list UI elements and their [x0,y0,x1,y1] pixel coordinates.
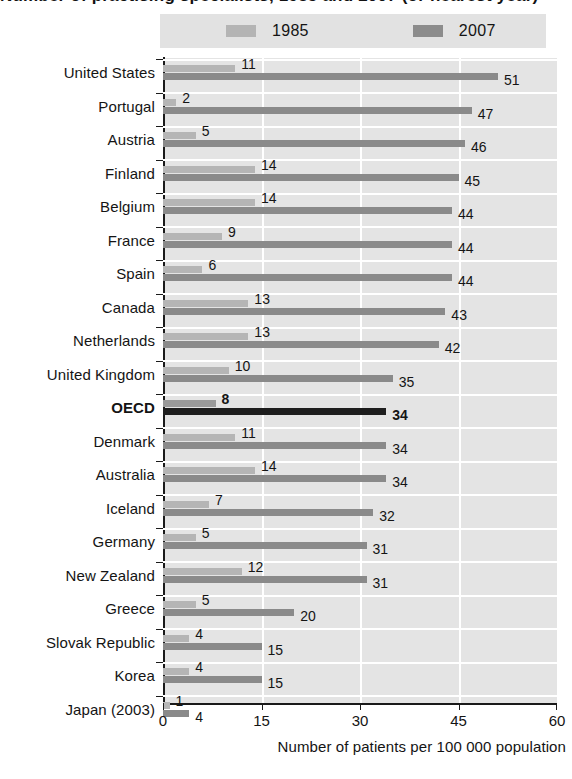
legend-item-2007[interactable]: 2007 [413,22,496,40]
bar-2007[interactable] [163,207,452,214]
bar-1985[interactable] [163,333,248,340]
bar-value-label-2007: 34 [392,407,408,423]
y-axis-tick [156,495,163,496]
bar-1985[interactable] [163,434,235,441]
chart-row[interactable]: Iceland732 [0,494,572,528]
y-axis-tick [156,662,163,663]
bar-2007[interactable] [163,609,294,616]
bar-value-label-1985: 5 [202,123,210,139]
category-label: Japan (2003) [0,701,155,718]
bar-2007[interactable] [163,408,386,415]
bar-1985[interactable] [163,568,242,575]
category-label: Portugal [0,98,155,115]
chart-row[interactable]: France944 [0,226,572,260]
bar-1985[interactable] [163,467,255,474]
bar-2007[interactable] [163,140,465,147]
chart-row[interactable]: Greece520 [0,594,572,628]
bar-value-label-2007: 31 [373,541,389,557]
category-label: Australia [0,466,155,483]
x-axis-tick-label: 0 [159,712,167,729]
bar-2007[interactable] [163,241,452,248]
y-axis-tick [156,595,163,596]
bar-1985[interactable] [163,534,196,541]
bar-1985[interactable] [163,300,248,307]
bar-value-label-1985: 14 [261,190,277,206]
bar-value-label-2007: 4 [195,709,203,725]
bar-1985[interactable] [163,501,209,508]
bar-2007[interactable] [163,308,445,315]
bar-1985[interactable] [163,199,255,206]
bar-value-label-1985: 7 [215,492,223,508]
chart-row[interactable]: Portugal247 [0,92,572,126]
bar-1985[interactable] [163,601,196,608]
bar-2007[interactable] [163,107,472,114]
y-axis-tick [156,59,163,60]
bar-1985[interactable] [163,367,229,374]
legend-label-1985: 1985 [272,22,309,40]
bar-2007[interactable] [163,274,452,281]
bar-value-label-1985: 14 [261,157,277,173]
bar-1985[interactable] [163,233,222,240]
chart-row[interactable]: Slovak Republic415 [0,628,572,662]
chart-row[interactable]: Netherlands1342 [0,326,572,360]
chart-row[interactable]: United States1151 [0,58,572,92]
bar-1985[interactable] [163,668,189,675]
chart-row[interactable]: New Zealand1231 [0,561,572,595]
bar-value-label-2007: 15 [268,675,284,691]
x-axis-tick [556,703,557,710]
chart-row[interactable]: Korea415 [0,661,572,695]
bar-2007[interactable] [163,509,373,516]
bar-2007[interactable] [163,73,498,80]
bar-2007[interactable] [163,542,367,549]
bar-2007[interactable] [163,442,386,449]
bar-2007[interactable] [163,676,262,683]
category-label: Germany [0,533,155,550]
bar-2007[interactable] [163,174,459,181]
bar-2007[interactable] [163,475,386,482]
bar-value-label-1985: 4 [195,626,203,642]
bar-2007[interactable] [163,341,439,348]
y-axis-tick [156,629,163,630]
bar-value-label-2007: 15 [268,642,284,658]
category-label: Iceland [0,500,155,517]
x-axis-tick-label: 60 [549,712,566,729]
chart-row[interactable]: Spain644 [0,259,572,293]
bar-value-label-2007: 44 [458,206,474,222]
x-axis-tick [459,703,460,710]
chart-row[interactable]: Denmark1134 [0,427,572,461]
chart-row[interactable]: Canada1343 [0,293,572,327]
chart-row[interactable]: OECD834 [0,393,572,427]
bar-value-label-1985: 9 [228,224,236,240]
bar-1985[interactable] [163,166,255,173]
bar-1985[interactable] [163,99,176,106]
bar-1985[interactable] [163,65,235,72]
bar-value-label-2007: 32 [379,508,395,524]
bar-2007[interactable] [163,643,262,650]
bar-1985[interactable] [163,400,216,407]
y-axis-tick [156,428,163,429]
chart-row[interactable]: Germany531 [0,527,572,561]
bar-value-label-1985: 5 [202,592,210,608]
category-label: Greece [0,600,155,617]
x-axis-tick-label: 45 [450,712,467,729]
x-axis-tick-label: 15 [253,712,270,729]
bar-1985[interactable] [163,635,189,642]
bar-value-label-2007: 44 [458,273,474,289]
bar-2007[interactable] [163,375,393,382]
y-axis-tick [156,394,163,395]
bar-1985[interactable] [163,132,196,139]
bar-1985[interactable] [163,266,202,273]
chart-row[interactable]: United Kingdom1035 [0,360,572,394]
category-label: OECD [0,399,155,416]
category-label: Canada [0,299,155,316]
bar-2007[interactable] [163,576,367,583]
bar-value-label-2007: 45 [465,173,481,189]
chart-row[interactable]: Austria546 [0,125,572,159]
chart-row[interactable]: Finland1445 [0,159,572,193]
chart-row[interactable]: Belgium1444 [0,192,572,226]
chart-row[interactable]: Japan (2003)14 [0,695,572,729]
legend-swatch-icon-1985 [226,25,256,37]
chart-row[interactable]: Australia1434 [0,460,572,494]
bar-value-label-2007: 34 [392,474,408,490]
legend-item-1985[interactable]: 1985 [226,22,309,40]
